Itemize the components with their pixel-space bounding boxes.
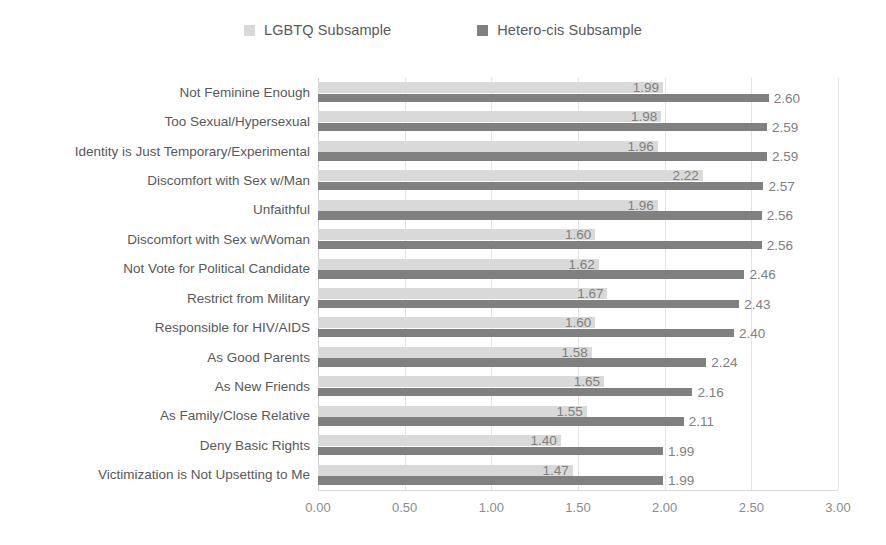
value-label-lgbtq: 1.47 [543,464,573,478]
value-label-lgbtq: 1.65 [574,375,604,389]
value-label-hetero-cis: 2.59 [767,150,798,164]
gridline [838,78,839,490]
bar-lgbtq [318,288,607,299]
value-label-lgbtq: 2.22 [673,169,703,183]
bar-row: 1.602.56 [318,225,838,254]
bar-lgbtq [318,465,573,476]
bar-lgbtq [318,376,604,387]
bar-row: 1.471.99 [318,461,838,490]
value-label-hetero-cis: 2.43 [739,298,770,312]
x-axis-ticks: 0.000.501.001.502.002.503.00 [318,493,838,523]
bar-hetero-cis [318,388,692,397]
value-label-lgbtq: 1.96 [627,140,657,154]
square-swatch-icon [244,25,255,36]
chart-legend: LGBTQ Subsample Hetero-cis Subsample [0,22,886,38]
plot-area: 1.992.601.982.591.962.592.222.571.962.56… [318,78,838,490]
value-label-lgbtq: 1.40 [530,434,560,448]
category-label: Restrict from Military [0,292,310,306]
category-label: Deny Basic Rights [0,439,310,453]
value-label-hetero-cis: 2.40 [734,327,765,341]
x-tick-label: 2.50 [739,501,764,514]
bar-row: 1.622.46 [318,255,838,284]
x-tick-label: 0.50 [392,501,417,514]
bar-hetero-cis [318,329,734,338]
value-label-hetero-cis: 2.46 [744,268,775,282]
bar-chart: LGBTQ Subsample Hetero-cis Subsample Not… [0,0,886,545]
value-label-lgbtq: 1.58 [562,346,592,360]
bar-row: 1.962.59 [318,137,838,166]
x-tick-label: 0.00 [305,501,330,514]
bar-lgbtq [318,200,658,211]
value-label-lgbtq: 1.67 [577,287,607,301]
category-label: As Family/Close Relative [0,409,310,423]
x-axis-line [318,490,838,491]
category-label: Discomfort with Sex w/Man [0,174,310,188]
bar-hetero-cis [318,300,739,309]
bar-hetero-cis [318,211,762,220]
x-tick-label: 1.50 [565,501,590,514]
bar-row: 1.982.59 [318,107,838,136]
bar-hetero-cis [318,152,767,161]
value-label-lgbtq: 1.55 [556,405,586,419]
category-label: Victimization is Not Upsetting to Me [0,468,310,482]
bar-hetero-cis [318,94,769,103]
bar-hetero-cis [318,447,663,456]
bar-hetero-cis [318,123,767,132]
legend-item-hetero-cis: Hetero-cis Subsample [477,22,642,38]
category-label: Identity is Just Temporary/Experimental [0,145,310,159]
bar-row: 1.962.56 [318,196,838,225]
category-label: Discomfort with Sex w/Woman [0,233,310,247]
value-label-lgbtq: 1.62 [569,258,599,272]
square-swatch-icon [477,25,488,36]
value-label-hetero-cis: 2.24 [706,356,737,370]
bar-hetero-cis [318,270,744,279]
value-label-hetero-cis: 2.16 [692,386,723,400]
value-label-hetero-cis: 2.57 [763,180,794,194]
bar-lgbtq [318,435,561,446]
x-tick-label: 1.00 [479,501,504,514]
value-label-lgbtq: 1.60 [565,228,595,242]
bar-hetero-cis [318,417,684,426]
bar-lgbtq [318,229,595,240]
bar-row: 1.401.99 [318,431,838,460]
bar-lgbtq [318,82,663,93]
category-label: As New Friends [0,380,310,394]
value-label-hetero-cis: 2.11 [684,415,714,429]
category-label: Responsible for HIV/AIDS [0,321,310,335]
bar-hetero-cis [318,241,762,250]
legend-label-hetero-cis: Hetero-cis Subsample [497,22,642,38]
legend-label-lgbtq: LGBTQ Subsample [264,22,391,38]
bar-row: 1.602.40 [318,313,838,342]
category-label: As Good Parents [0,351,310,365]
category-label: Too Sexual/Hypersexual [0,115,310,129]
x-tick-label: 3.00 [825,501,850,514]
bar-lgbtq [318,170,703,181]
bar-row: 1.652.16 [318,372,838,401]
value-label-hetero-cis: 2.60 [769,92,800,106]
value-label-lgbtq: 1.99 [633,81,663,95]
bar-rows: 1.992.601.982.591.962.592.222.571.962.56… [318,78,838,490]
value-label-hetero-cis: 2.56 [762,209,793,223]
value-label-lgbtq: 1.98 [631,110,661,124]
value-label-lgbtq: 1.96 [627,199,657,213]
bar-row: 1.992.60 [318,78,838,107]
bar-lgbtq [318,317,595,328]
value-label-hetero-cis: 1.99 [663,445,694,459]
bar-row: 1.582.24 [318,343,838,372]
bar-hetero-cis [318,476,663,485]
bar-row: 1.552.11 [318,402,838,431]
bar-lgbtq [318,406,587,417]
bar-lgbtq [318,141,658,152]
bar-row: 2.222.57 [318,166,838,195]
legend-item-lgbtq: LGBTQ Subsample [244,22,391,38]
x-tick-label: 2.00 [652,501,677,514]
bar-row: 1.672.43 [318,284,838,313]
value-label-hetero-cis: 2.59 [767,121,798,135]
bar-lgbtq [318,259,599,270]
bar-lgbtq [318,347,592,358]
value-label-hetero-cis: 2.56 [762,239,793,253]
value-label-lgbtq: 1.60 [565,316,595,330]
category-label: Unfaithful [0,203,310,217]
category-label: Not Vote for Political Candidate [0,262,310,276]
bar-hetero-cis [318,358,706,367]
